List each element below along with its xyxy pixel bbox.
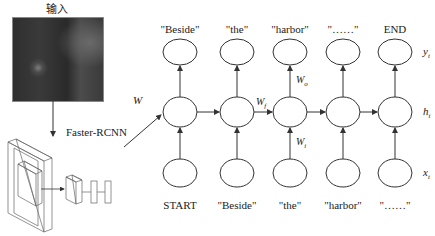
weight-wf-label: Wf [256, 96, 266, 110]
output-label: "the" [226, 23, 248, 35]
rnn-nodes [163, 39, 412, 187]
output-label: "……" [328, 23, 359, 35]
cnn-icon [8, 139, 111, 232]
row-label-x: xt [423, 166, 430, 181]
input-token-label: "the" [279, 199, 301, 211]
wi-subscript: i [304, 142, 306, 150]
wf-subscript: f [264, 102, 266, 110]
output-label: "Beside" [161, 23, 200, 35]
output-label: "harbor" [271, 23, 309, 35]
input-token-label: "……" [380, 199, 411, 211]
weight-wi-label: Wi [296, 136, 306, 150]
input-token-label: START [163, 199, 196, 211]
weight-w-label: W [133, 94, 142, 106]
input-token-label: "Beside" [218, 199, 257, 211]
row-label-h: ht [423, 105, 430, 120]
faster-rcnn-label: Faster-RCNN [66, 126, 127, 138]
output-label: END [384, 23, 407, 35]
row-label-y: yt [423, 45, 430, 60]
input-token-label: "harbor" [324, 199, 362, 211]
wo-subscript: o [304, 80, 308, 88]
feature-to-rnn-arrow [124, 115, 161, 147]
weight-wo-label: Wo [296, 74, 308, 88]
